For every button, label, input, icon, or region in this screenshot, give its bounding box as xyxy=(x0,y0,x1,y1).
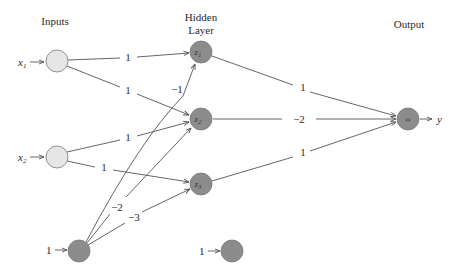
edge-z1-o-b xyxy=(310,92,396,116)
edge-x2-z3-b xyxy=(113,170,189,182)
weight-z1-o: 1 xyxy=(300,81,306,93)
weight-x1-z2: 1 xyxy=(125,84,131,96)
edge-z3-o-b xyxy=(310,122,396,151)
weight-x2-z2: 1 xyxy=(125,131,131,143)
weight-b-z1: −1 xyxy=(171,83,183,95)
weight-x2-z3: 1 xyxy=(101,161,107,173)
output-node-label: o xyxy=(406,114,411,124)
hidden-bias-label: 1 xyxy=(199,245,205,257)
bias-input-label: 1 xyxy=(46,244,52,256)
weight-z3-o: 1 xyxy=(300,146,306,158)
hidden-header-line1: Hidden xyxy=(185,11,218,23)
weight-z2-o: −2 xyxy=(293,113,305,125)
hidden-header-line2: Layer xyxy=(188,24,214,36)
bias-node-hidden xyxy=(221,240,243,262)
output-y-label: y xyxy=(436,113,442,125)
edge-b-z3-a xyxy=(88,223,125,245)
edge-x2-z2-a xyxy=(67,140,120,152)
edge-x1-z2-b xyxy=(137,94,189,115)
x2-label: x2 xyxy=(17,151,27,165)
weight-x1-z1: 1 xyxy=(125,51,131,63)
edge-x1-z1-b xyxy=(137,53,189,57)
output-header: Output xyxy=(394,18,425,30)
edge-x2-z3-a xyxy=(67,161,95,167)
edge-b-z3-b xyxy=(142,189,190,212)
neural-network-diagram: Inputs Hidden Layer Output 1 1 1 1 −1 −2… xyxy=(0,0,455,276)
inputs-header: Inputs xyxy=(41,15,69,27)
input-node-x1 xyxy=(46,50,68,72)
edge-z1-o-a xyxy=(212,56,293,85)
x1-label: x1 xyxy=(17,56,26,70)
edge-x2-z2-b xyxy=(137,122,189,136)
edge-z3-o-a xyxy=(212,157,293,181)
edge-b-z1-b xyxy=(183,64,195,96)
input-node-x2 xyxy=(46,146,68,168)
edge-b-z2-b xyxy=(126,128,191,197)
edge-x1-z1-a xyxy=(68,58,120,60)
bias-node-input xyxy=(68,240,90,262)
weight-b-z3: −3 xyxy=(128,211,140,223)
edge-x1-z2-a xyxy=(67,66,120,87)
weight-b-z2: −2 xyxy=(111,201,123,213)
